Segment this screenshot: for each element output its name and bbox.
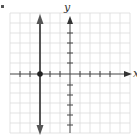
x-axis-label: x [133, 67, 137, 80]
y-axis-arrow-icon [67, 16, 73, 24]
y-axis-label: y [63, 1, 71, 14]
x-axis-arrow-icon [124, 71, 132, 77]
x-axis [10, 71, 132, 77]
coordinate-plane: y x [0, 0, 137, 140]
x-intercept-point [37, 71, 43, 77]
vertical-line-series [37, 14, 44, 135]
line-arrow-down-icon [37, 125, 44, 135]
line-arrow-up-icon [37, 14, 44, 24]
